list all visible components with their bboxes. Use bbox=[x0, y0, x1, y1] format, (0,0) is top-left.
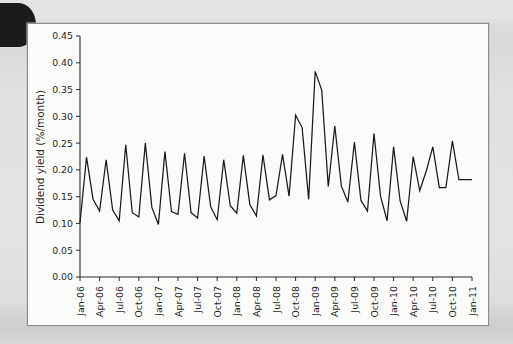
x-tick-label: Oct-09 bbox=[369, 286, 380, 318]
x-axis-ticks bbox=[80, 277, 472, 281]
x-tick-label: Apr-06 bbox=[94, 286, 105, 317]
x-tick-label: Jan-10 bbox=[388, 286, 399, 317]
x-tick-label: Jul-06 bbox=[114, 286, 125, 314]
y-tick-label: 0.15 bbox=[52, 191, 73, 202]
x-tick-label: Jan-08 bbox=[231, 286, 242, 317]
y-tick-label: 0.05 bbox=[52, 245, 73, 256]
x-tick-label: Jul-10 bbox=[427, 286, 438, 314]
y-axis-title: Dividend yield (%/month) bbox=[34, 90, 46, 224]
y-tick-label: 0.40 bbox=[52, 57, 73, 68]
y-axis-tick-labels: 0.000.050.100.150.200.250.300.350.400.45 bbox=[52, 30, 73, 282]
x-tick-label: Oct-06 bbox=[133, 286, 144, 318]
x-tick-label: Jan-09 bbox=[310, 286, 321, 317]
x-tick-label: Apr-09 bbox=[329, 286, 340, 317]
x-tick-label: Jan-07 bbox=[153, 286, 164, 317]
x-tick-label: Apr-07 bbox=[173, 286, 184, 317]
y-tick-label: 0.25 bbox=[52, 138, 73, 149]
y-tick-label: 0.10 bbox=[52, 218, 73, 229]
x-tick-label: Apr-08 bbox=[251, 286, 262, 317]
x-tick-label: Jul-07 bbox=[192, 286, 203, 314]
y-axis-ticks bbox=[76, 36, 80, 277]
x-tick-label: Jan-06 bbox=[75, 286, 86, 317]
dividend-yield-line-chart: 0.000.050.100.150.200.250.300.350.400.45… bbox=[28, 24, 486, 323]
x-tick-label: Oct-07 bbox=[212, 286, 223, 318]
x-tick-label: Jan-11 bbox=[467, 286, 478, 317]
y-tick-label: 0.20 bbox=[52, 164, 73, 175]
y-tick-label: 0.35 bbox=[52, 84, 73, 95]
x-axis-tick-labels: Jan-06Apr-06Jul-06Oct-06Jan-07Apr-07Jul-… bbox=[75, 286, 478, 318]
data-series-line bbox=[80, 71, 472, 224]
x-tick-label: Jul-09 bbox=[349, 286, 360, 314]
y-tick-label: 0.00 bbox=[52, 271, 73, 282]
x-tick-label: Oct-08 bbox=[290, 286, 301, 318]
x-tick-label: Jul-08 bbox=[271, 286, 282, 314]
figure-frame: 0.000.050.100.150.200.250.300.350.400.45… bbox=[27, 23, 489, 326]
x-tick-label: Oct-10 bbox=[447, 286, 458, 318]
y-tick-label: 0.30 bbox=[52, 111, 73, 122]
x-tick-label: Apr-10 bbox=[408, 286, 419, 317]
y-tick-label: 0.45 bbox=[52, 30, 73, 41]
